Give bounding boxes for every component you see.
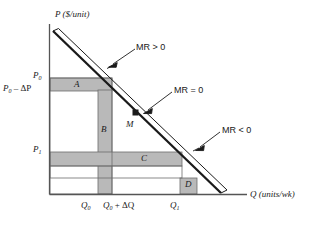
x-tick-label-q0-plus-dq: Q0 + ΔQ [103, 201, 134, 210]
region-label-D: D [185, 180, 192, 189]
y-tick-label-p0: P0 [33, 71, 42, 80]
x-tick-q1-main: Q [170, 200, 177, 210]
x-tick-q0dq-tail: + ΔQ [113, 200, 135, 210]
y-tick-p1-sub: 1 [39, 149, 42, 155]
demand-curve-cap-bottom [221, 190, 227, 193]
y-tick-p0dp-tail: – ΔP [12, 83, 32, 93]
y-tick-p0dp-main: P [3, 83, 9, 93]
x-tick-q0dq-sub: 0 [110, 205, 113, 211]
y-axis-title: P ($/unit) [55, 10, 90, 19]
region-label-B: B [101, 125, 107, 134]
arrow-head-mr-positive [109, 63, 118, 68]
y-tick-p0dp-sub: 0 [9, 88, 12, 94]
region-C-rect [50, 152, 182, 166]
y-tick-label-p1: P1 [33, 145, 42, 154]
x-tick-q0-main: Q [81, 200, 88, 210]
y-tick-p0-sub: 0 [39, 75, 42, 81]
y-tick-label-p0-minus-dp: P0 – ΔP [3, 84, 31, 93]
y-tick-p0-main: P [33, 70, 39, 80]
x-tick-q0-sub: 0 [88, 205, 91, 211]
arrow-line-mr-zero [148, 92, 172, 110]
y-tick-p1-main: P [33, 144, 39, 154]
demand-curve-cap-top [53, 29, 59, 32]
demand-curve [53, 29, 227, 194]
x-axis-title: Q (units/wk) [250, 190, 295, 199]
region-label-A: A [74, 80, 80, 89]
x-tick-label-q0: Q0 [81, 201, 91, 210]
shaded-regions [50, 78, 197, 194]
region-outline-box-lower [50, 166, 182, 178]
curve-ticks [107, 66, 199, 152]
region-label-C: C [141, 154, 147, 163]
arrow-line-mr-positive [113, 49, 135, 64]
annotation-mr-zero: MR = 0 [174, 86, 203, 95]
arrow-head-mr-negative [196, 146, 205, 151]
midpoint-marker-icon [133, 110, 139, 116]
x-tick-q0dq-main: Q [103, 200, 110, 210]
midpoint-label-M: M [126, 120, 134, 129]
arrow-line-mr-negative [200, 132, 220, 147]
x-tick-q1-sub: 1 [177, 205, 180, 211]
annotation-mr-negative: MR < 0 [222, 126, 251, 135]
x-tick-label-q1: Q1 [170, 201, 180, 210]
demand-curve-figure: P ($/unit) Q (units/wk) P0 P0 – ΔP P1 Q0… [0, 0, 318, 228]
annotation-mr-positive: MR > 0 [136, 43, 165, 52]
